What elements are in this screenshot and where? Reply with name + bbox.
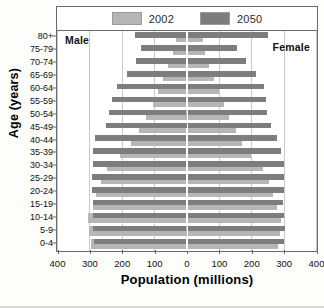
bar-2050-female [187, 174, 285, 180]
y-axis-tick-label: 50-54 [30, 109, 53, 119]
x-axis-tick-label: 100 [147, 258, 163, 269]
y-axis-tick-mark [52, 229, 56, 230]
bar-2050-female [187, 135, 278, 141]
female-side-label: Female [273, 41, 310, 53]
y-axis-tick-mark [52, 87, 56, 88]
bar-2050-male [93, 161, 187, 167]
chart-root: 2002 2050 Male Female 80+75-7970-7465-69… [0, 0, 324, 308]
x-axis-tick-mark [284, 250, 285, 254]
y-axis-tick-label: 40-44 [30, 135, 53, 145]
legend-label-2002: 2002 [149, 13, 174, 25]
y-axis-tick-mark [52, 242, 56, 243]
bar-2050-female [187, 213, 284, 219]
x-axis-tick-mark [155, 250, 156, 254]
legend-swatch-2002 [112, 12, 142, 25]
bar-2050-male [135, 32, 186, 38]
y-axis-title: Age (years) [7, 63, 21, 143]
plot-area: Male Female [57, 31, 317, 251]
y-axis-tick-label: 60-64 [30, 83, 53, 93]
y-axis-tick-mark [52, 216, 56, 217]
y-axis-tick-mark [52, 49, 56, 50]
y-axis-tick-mark [52, 36, 56, 37]
zero-axis-line [187, 31, 189, 251]
y-axis-tick-mark [52, 165, 56, 166]
bar-2050-male [94, 239, 187, 245]
male-side-label: Male [65, 34, 89, 46]
x-axis-tick-mark [58, 250, 59, 254]
x-axis-tick-label: 300 [276, 258, 292, 269]
x-axis: 4003002001000100200300400 [56, 254, 318, 268]
bar-2050-male [93, 226, 186, 232]
chart-frame: 2002 2050 Male Female [56, 6, 318, 252]
bar-2050-male [106, 123, 187, 129]
bar-2050-male [92, 174, 187, 180]
y-axis-tick-mark [52, 191, 56, 192]
x-axis-tick-mark [252, 250, 253, 254]
bar-2050-female [187, 148, 282, 154]
legend-label-2050: 2050 [237, 13, 262, 25]
bar-2050-male [93, 213, 187, 219]
x-axis-tick-mark [219, 250, 220, 254]
y-axis-tick-label: 35-39 [30, 147, 53, 157]
y-axis-tick-mark [52, 139, 56, 140]
y-axis-tick-label: 55-59 [30, 96, 53, 106]
x-axis-tick-label: 300 [82, 258, 98, 269]
x-axis-title: Population (millions) [56, 272, 318, 287]
y-axis-tick-label: 70-74 [30, 57, 53, 67]
x-axis-tick-label: 200 [244, 258, 260, 269]
legend-item-2002: 2002 [112, 12, 174, 25]
y-axis-tick-label: 30-34 [30, 160, 53, 170]
y-axis-tick-label: 45-49 [30, 122, 53, 132]
bar-2050-female [187, 161, 284, 167]
bar-2050-female [187, 110, 268, 116]
x-axis-tick-label: 0 [184, 258, 189, 269]
bar-2050-male [95, 135, 186, 141]
bar-2050-female [187, 32, 269, 38]
y-axis-tick-label: 20-24 [30, 186, 53, 196]
x-axis-tick-mark [317, 250, 318, 254]
x-axis-tick-mark [122, 250, 123, 254]
y-axis-tick-mark [52, 203, 56, 204]
bar-2050-female [187, 187, 284, 193]
y-axis-tick-label: 80+ [38, 31, 53, 41]
bar-2050-male [93, 200, 187, 206]
bar-2050-female [187, 123, 272, 129]
x-axis-tick-mark [90, 250, 91, 254]
bar-2050-male [127, 71, 187, 77]
y-axis-tick-label: 75-79 [30, 44, 53, 54]
bar-2050-male [92, 187, 187, 193]
y-axis-tick-mark [52, 152, 56, 153]
bar-2050-male [109, 110, 187, 116]
y-axis-tick-label: 10-14 [30, 212, 53, 222]
chart-legend: 2002 2050 [57, 7, 317, 31]
y-axis-tick-mark [52, 62, 56, 63]
bar-2050-female [187, 71, 257, 77]
y-axis-tick-label: 25-29 [30, 173, 53, 183]
y-axis-tick-mark [52, 75, 56, 76]
x-axis-tick-label: 400 [309, 258, 324, 269]
bar-2050-female [187, 84, 265, 90]
bar-2050-male [117, 84, 187, 90]
bar-2050-male [136, 58, 186, 64]
bar-2050-male [141, 45, 187, 51]
bar-2050-female [187, 200, 283, 206]
legend-swatch-2050 [200, 12, 230, 25]
bar-2050-male [93, 148, 186, 154]
x-axis-tick-label: 200 [114, 258, 130, 269]
bar-2050-female [187, 58, 247, 64]
bar-2050-male [112, 97, 186, 103]
y-axis-tick-mark [52, 113, 56, 114]
y-axis-tick-mark [52, 178, 56, 179]
y-axis-tick-label: 15-19 [30, 199, 53, 209]
bar-2050-female [187, 45, 237, 51]
bar-2050-female [187, 97, 266, 103]
y-axis-tick-label: 65-69 [30, 70, 53, 80]
y-axis-tick-mark [52, 100, 56, 101]
bar-2050-female [187, 239, 284, 245]
legend-item-2050: 2050 [200, 12, 262, 25]
bar-2050-female [187, 226, 286, 232]
y-axis-tick-mark [52, 126, 56, 127]
x-axis-tick-label: 100 [211, 258, 227, 269]
x-axis-tick-label: 400 [50, 258, 66, 269]
